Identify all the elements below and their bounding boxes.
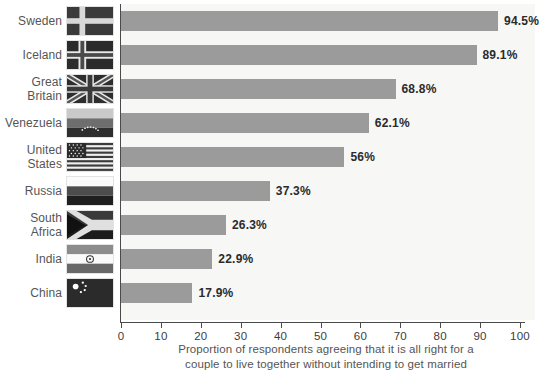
country-label: Sweden: [0, 14, 62, 28]
country-label: Venezuela: [0, 116, 62, 130]
bar: [121, 215, 226, 235]
chart-row: India 22.9%: [0, 242, 535, 276]
flag-south-africa-icon: [66, 210, 114, 240]
x-tick-label: 90: [473, 330, 486, 342]
bar: [121, 79, 396, 99]
bar: [121, 11, 498, 31]
x-tick-mark: [121, 323, 122, 328]
x-tick-mark: [281, 323, 282, 328]
chart-row: Venezuela 62.1%: [0, 106, 535, 140]
x-tick-mark: [480, 323, 481, 328]
x-tick-label: 40: [274, 330, 287, 342]
country-label: South Africa: [0, 211, 62, 239]
x-tick-mark: [241, 323, 242, 328]
chart-row: United States 56%: [0, 140, 535, 174]
x-tick-label: 60: [354, 330, 367, 342]
x-axis-line: [120, 322, 525, 323]
caption-line-2: couple to live together without intendin…: [121, 357, 531, 372]
bar: [121, 147, 344, 167]
bar-value-label: 26.3%: [232, 218, 267, 232]
x-tick-label: 80: [434, 330, 447, 342]
x-tick-label: 10: [154, 330, 167, 342]
country-label: India: [0, 252, 62, 266]
x-axis-caption: Proportion of respondents agreeing that …: [121, 342, 531, 372]
chart-row: South Africa 26.3%: [0, 208, 535, 242]
chart-row: China 17.9%: [0, 276, 535, 310]
country-label: Iceland: [0, 48, 62, 62]
bar: [121, 181, 270, 201]
flag-venezuela-icon: [66, 108, 114, 138]
x-tick-mark: [321, 323, 322, 328]
bar-value-label: 62.1%: [375, 116, 410, 130]
x-tick-mark: [400, 323, 401, 328]
flag-china-icon: [66, 278, 114, 308]
x-tick-label: 0: [118, 330, 125, 342]
country-label: United States: [0, 143, 62, 171]
x-tick-mark: [201, 323, 202, 328]
bar: [121, 45, 477, 65]
bar: [121, 283, 192, 303]
bar-value-label: 17.9%: [198, 286, 233, 300]
flag-russia-icon: [66, 176, 114, 206]
bar: [121, 113, 369, 133]
country-label: Russia: [0, 184, 62, 198]
bar-value-label: 37.3%: [276, 184, 311, 198]
flag-sweden-icon: [66, 6, 114, 36]
x-tick-mark: [520, 323, 521, 328]
bar-value-label: 68.8%: [402, 82, 437, 96]
flag-india-icon: [66, 244, 114, 274]
chart-row: Great Britain 68.8%: [0, 72, 535, 106]
x-tick-mark: [161, 323, 162, 328]
x-tick-label: 50: [314, 330, 327, 342]
chart-row: Sweden 94.5%: [0, 4, 535, 38]
x-tick-label: 30: [234, 330, 247, 342]
country-label: Great Britain: [0, 75, 62, 103]
country-label: China: [0, 286, 62, 300]
caption-line-1: Proportion of respondents agreeing that …: [121, 342, 531, 357]
flag-united-states-icon: [66, 142, 114, 172]
chart-row: Iceland 89.1%: [0, 38, 535, 72]
x-tick-label: 100: [510, 330, 530, 342]
flag-iceland-icon: [66, 40, 114, 70]
x-tick-label: 70: [394, 330, 407, 342]
bar-value-label: 94.5%: [504, 14, 539, 28]
x-tick-label: 20: [194, 330, 207, 342]
bar-value-label: 89.1%: [483, 48, 518, 62]
x-tick-mark: [440, 323, 441, 328]
x-tick-mark: [360, 323, 361, 328]
bar-value-label: 22.9%: [218, 252, 253, 266]
bar-value-label: 56%: [350, 150, 375, 164]
chart-row: Russia 37.3%: [0, 174, 535, 208]
flag-great-britain-icon: [66, 74, 114, 104]
bar: [121, 249, 212, 269]
